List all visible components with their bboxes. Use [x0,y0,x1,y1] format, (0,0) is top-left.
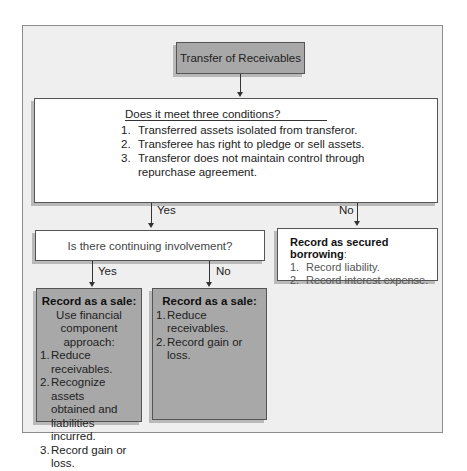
list-item: 2.Recognize assets [40,376,141,403]
title-suffix: : [344,248,347,260]
list-item: 3.Record gain or loss. [40,444,141,471]
edge-label-yes: Yes [98,265,117,277]
list-item: 2.Record gain or loss. [156,336,266,363]
secured-borrowing-list: 1.Record liability. 2.Record interest ex… [290,261,437,287]
list-item: 1.Reduce receivables. [156,309,266,336]
item-text: Record gain or loss. [167,336,266,363]
condition-item: 3.Transferor does not maintain control t… [121,151,365,165]
arrow-down-icon [89,282,95,287]
conditions-question: Does it meet three conditions? [125,108,327,121]
connector-line [92,261,93,282]
sale-title: Record as a sale: [153,295,266,309]
item-number [40,417,51,444]
edge-label-yes: Yes [157,204,176,216]
list-item: liabilities incurred. [40,417,141,444]
title-text: Transfer of Receivables [180,52,301,64]
item-text: Record gain or loss. [51,444,141,471]
item-number: 1. [156,309,167,336]
item-number: 2. [40,376,51,403]
item-text: repurchase agreement. [138,165,257,179]
item-number: 3. [121,151,138,165]
item-text: Record liability. [306,261,380,273]
list-item: 1.Record liability. [290,261,437,274]
sale-with-involvement-box: Record as a sale: Use financial componen… [36,288,142,422]
list-item: obtained and [40,403,141,417]
subtitle-line: approach: [37,336,141,350]
item-number: 2. [290,274,306,287]
connector-line [357,203,358,222]
arrow-down-icon [354,221,360,226]
item-text: liabilities incurred. [51,417,141,444]
item-text: Transferred assets isolated from transfe… [138,123,357,137]
involvement-question: Is there continuing involvement? [68,240,233,252]
subtitle-line: component [37,322,141,336]
sale-list: 1.Reduce receivables. 2.Recognize assets… [37,349,141,471]
condition-item: 2.Transferee has right to pledge or sell… [121,137,365,151]
sale-list: 1.Reduce receivables. 2.Record gain or l… [153,309,266,363]
condition-item: 1.Transferred assets isolated from trans… [121,123,365,137]
title-box: Transfer of Receivables [176,42,305,74]
connector-line [209,261,210,282]
sale-title: Record as a sale: [37,295,141,309]
connector-line [240,74,241,93]
item-number: 1. [40,349,51,376]
subtitle-line: Use financial [37,309,141,323]
item-number: 2. [156,336,167,363]
item-number [121,165,138,179]
conditions-list: 1.Transferred assets isolated from trans… [121,123,365,179]
arrow-down-icon [237,92,243,97]
secured-borrowing-box: Record as secured borrowing: 1.Record li… [277,228,438,281]
arrow-down-icon [148,223,154,228]
item-number: 1. [121,123,138,137]
item-text: Transferee has right to pledge or sell a… [138,137,365,151]
condition-item: repurchase agreement. [121,165,365,179]
connector-line [151,203,152,224]
item-number: 1. [290,261,306,274]
edge-label-no: No [339,204,354,216]
item-text: Reduce receivables. [51,349,141,376]
secured-borrowing-title: Record as secured borrowing [290,236,388,260]
item-text: obtained and [51,403,118,417]
item-number [40,403,51,417]
item-text: Recognize assets [51,376,141,403]
item-text: Reduce receivables. [167,309,266,336]
arrow-down-icon [206,282,212,287]
sale-no-involvement-box: Record as a sale: 1.Reduce receivables. … [152,288,267,420]
item-text: Record interest expense. [306,274,428,286]
item-number: 3. [40,444,51,471]
item-number: 2. [121,137,138,151]
list-item: 1.Reduce receivables. [40,349,141,376]
edge-label-no: No [216,265,231,277]
conditions-box: Does it meet three conditions? 1.Transfe… [34,98,438,203]
item-text: Transferor does not maintain control thr… [138,151,365,165]
list-item: 2.Record interest expense. [290,274,437,287]
involvement-box: Is there continuing involvement? [35,230,265,261]
